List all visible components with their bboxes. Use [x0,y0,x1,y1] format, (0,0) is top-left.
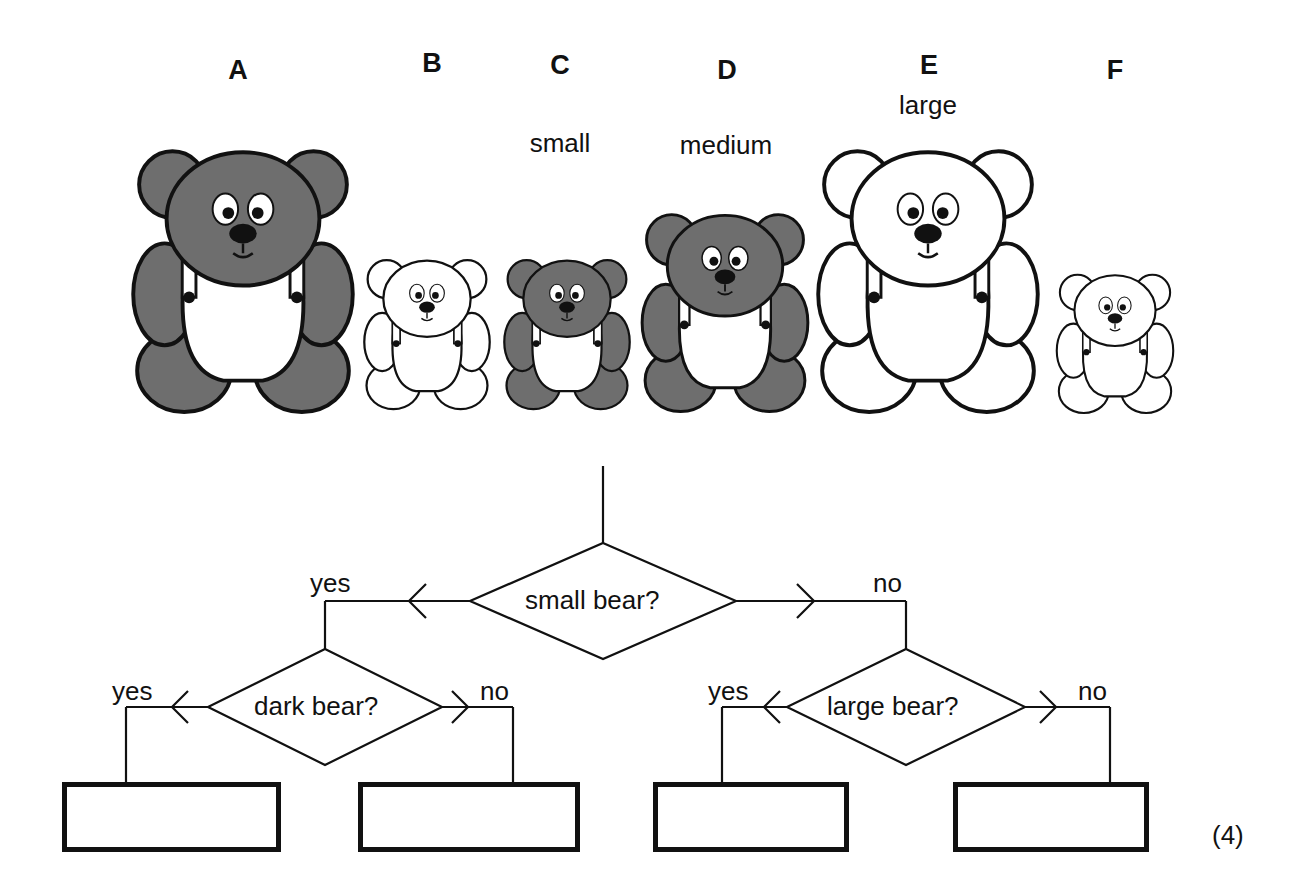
marks-indicator: (4) [1212,820,1244,851]
flowchart-lines [126,466,1110,783]
bear-f-icon [1057,275,1173,413]
right-yes-label: yes [708,676,748,707]
root-yes-label: yes [310,568,350,599]
bear-b-icon [364,260,489,409]
question-dark-bear: dark bear? [254,691,378,722]
diagram-canvas [0,0,1311,894]
bear-a-icon [133,151,353,412]
left-yes-label: yes [112,676,152,707]
bear-c-icon [504,260,629,409]
question-small-bear: small bear? [525,585,659,616]
root-no-label: no [873,568,902,599]
bear-e-icon [818,151,1038,412]
answer-box-large[interactable] [653,782,849,852]
question-large-bear: large bear? [827,691,959,722]
answer-box-medium[interactable] [953,782,1149,852]
bear-d-icon [642,215,808,412]
answer-box-small-light[interactable] [358,782,580,852]
answer-box-small-dark[interactable] [62,782,281,852]
right-no-label: no [1078,676,1107,707]
left-no-label: no [480,676,509,707]
